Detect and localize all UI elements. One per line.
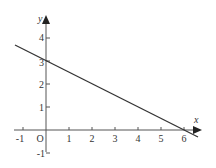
chart: -1 1 2 3 4 5 6 O -1 1 2 3 4 y x — [0, 0, 216, 168]
x-axis-label: x — [193, 114, 199, 125]
svg-text:2: 2 — [90, 133, 95, 144]
y-ticks — [46, 38, 50, 153]
svg-text:1: 1 — [67, 133, 72, 144]
x-axis-arrow-icon — [193, 126, 202, 134]
svg-text:1: 1 — [39, 102, 44, 113]
svg-text:4: 4 — [39, 32, 44, 43]
svg-text:3: 3 — [113, 133, 118, 144]
svg-text:2: 2 — [39, 79, 44, 90]
svg-text:-1: -1 — [16, 133, 24, 144]
data-line — [15, 45, 198, 137]
y-axis-arrow-icon — [42, 15, 50, 24]
svg-text:5: 5 — [159, 133, 164, 144]
svg-text:6: 6 — [182, 133, 187, 144]
svg-text:-1: -1 — [37, 148, 45, 159]
origin-label: O — [36, 133, 43, 144]
y-axis-label: y — [37, 13, 43, 24]
svg-text:4: 4 — [136, 133, 141, 144]
